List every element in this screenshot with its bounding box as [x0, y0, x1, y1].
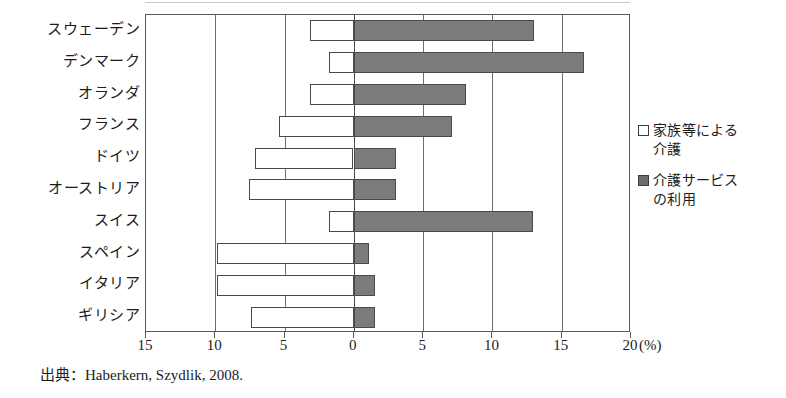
bar-row	[146, 243, 629, 264]
bar-service-use	[354, 211, 533, 232]
bar-family-care	[310, 84, 354, 105]
bar-row	[146, 179, 629, 200]
bar-service-use	[354, 307, 375, 328]
bar-service-use	[354, 84, 466, 105]
x-axis-tick-label: 10	[471, 338, 511, 353]
bar-family-care	[249, 179, 354, 200]
filled-square-swatch-icon	[638, 175, 649, 186]
legend-label-family-care: 家族等による 介護	[653, 122, 739, 160]
legend-item-service-use: 介護サービス の利用	[638, 172, 786, 210]
top-rule	[145, 2, 630, 3]
category-label: デンマーク	[0, 54, 140, 69]
category-label: スイス	[0, 213, 140, 228]
x-axis-tick-label: 15	[125, 338, 165, 353]
x-axis-unit-label: (%)	[639, 338, 662, 353]
bar-family-care	[329, 211, 354, 232]
category-label: オーストリア	[0, 181, 140, 196]
bar-service-use	[354, 20, 534, 41]
x-axis-tick-label: 10	[194, 338, 234, 353]
bar-row	[146, 84, 629, 105]
x-axis-tick-label: 15	[541, 338, 581, 353]
x-axis-tick-label: 5	[264, 338, 304, 353]
bar-family-care	[279, 116, 354, 137]
category-label: スペイン	[0, 245, 140, 260]
bar-row	[146, 211, 629, 232]
legend-label-service-use: 介護サービス の利用	[653, 172, 739, 210]
category-label: ドイツ	[0, 149, 140, 164]
bar-family-care	[329, 52, 354, 73]
bar-service-use	[354, 148, 396, 169]
legend-item-family-care: 家族等による 介護	[638, 122, 786, 160]
bar-family-care	[217, 275, 354, 296]
category-label: イタリア	[0, 276, 140, 291]
bar-family-care	[251, 307, 354, 328]
bar-family-care	[310, 20, 354, 41]
x-axis-tick-labels: 1510505101520	[0, 338, 786, 360]
category-label: オランダ	[0, 86, 140, 101]
bar-row	[146, 307, 629, 328]
bar-row	[146, 275, 629, 296]
category-label: スウェーデン	[0, 22, 140, 37]
bar-service-use	[354, 275, 375, 296]
x-axis-tick-label: 5	[402, 338, 442, 353]
bar-service-use	[354, 243, 369, 264]
bar-family-care	[217, 243, 354, 264]
chart-container: スウェーデンデンマークオランダフランスドイツオーストリアスイススペインイタリアギ…	[0, 0, 786, 398]
source-note: 出典：Haberkern, Szydlik, 2008.	[40, 368, 243, 383]
chart-legend: 家族等による 介護 介護サービス の利用	[638, 122, 786, 222]
plot-area	[145, 14, 630, 332]
bar-row	[146, 148, 629, 169]
bar-service-use	[354, 52, 584, 73]
category-label: ギリシア	[0, 308, 140, 323]
category-axis-labels: スウェーデンデンマークオランダフランスドイツオーストリアスイススペインイタリアギ…	[0, 14, 140, 332]
bar-row	[146, 116, 629, 137]
bar-family-care	[255, 148, 353, 169]
bar-row	[146, 52, 629, 73]
bar-service-use	[354, 179, 396, 200]
bar-row	[146, 20, 629, 41]
category-label: フランス	[0, 117, 140, 132]
x-axis-tick-label: 0	[333, 338, 373, 353]
open-square-swatch-icon	[638, 125, 649, 136]
bar-service-use	[354, 116, 452, 137]
